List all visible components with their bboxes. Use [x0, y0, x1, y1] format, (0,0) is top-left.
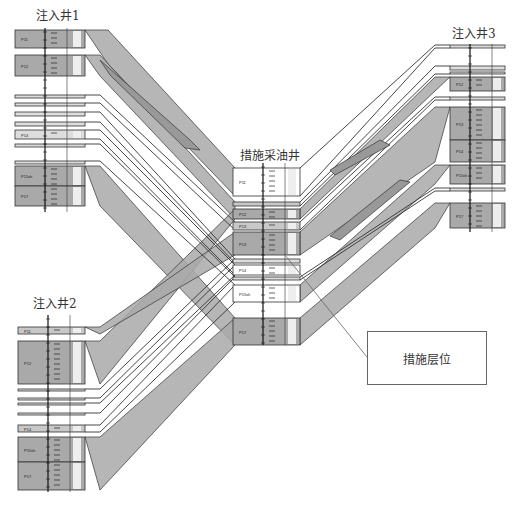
layer-label: P11 [24, 329, 32, 334]
layer-P13 [18, 389, 85, 391]
interpretation-box [493, 78, 501, 90]
interpretation-box [493, 108, 501, 139]
layer-P13 [15, 112, 85, 116]
well-column-prod: P11P12P13P13P14P15shP17 [233, 163, 300, 345]
sand-lens [100, 60, 200, 150]
layer-P12 [450, 72, 505, 74]
layer-label: P12 [21, 64, 29, 69]
layer-P14 [18, 413, 85, 415]
layer-P13 [18, 398, 85, 400]
interpretation-box [493, 204, 501, 227]
well-title-producer: 措施采油井 [240, 146, 300, 163]
interpretation-box [288, 286, 296, 301]
interpretation-box [73, 167, 81, 185]
interpretation-box [288, 223, 296, 229]
layer-P14 [18, 403, 85, 405]
layer-label: P17 [456, 214, 464, 219]
layer-label: P14 [24, 427, 32, 432]
layer-P11 [450, 45, 505, 48]
well-correlation-diagram: P11P12P14P15shP17P11P12P13P13P14P15shP17… [0, 0, 528, 506]
layer-label: P14 [456, 149, 464, 154]
well-title-injector-1: 注入井1 [36, 6, 80, 23]
callout-measure-layer: 措施层位 [367, 331, 487, 385]
layer-label: P14 [239, 268, 247, 273]
layer-label: P15sh [21, 174, 32, 179]
interpretation-box [288, 210, 296, 218]
interpretation-box [288, 169, 296, 195]
layer-label: P15sh [24, 448, 35, 453]
layer-P14 [15, 122, 85, 126]
layer-label: P17 [239, 330, 247, 335]
interpretation-box [73, 328, 81, 333]
well-column-inj3: P12P13P14P15shP17 [450, 44, 505, 232]
well-column-inj1: P11P12P14P15shP17 [15, 28, 85, 212]
well-column-inj2: P11P12P14P15shP17 [18, 315, 85, 492]
layer-label: P12 [456, 82, 464, 87]
layer-label: P13 [456, 122, 464, 127]
well-title-injector-3: 注入井3 [452, 24, 496, 41]
interpretation-box [73, 438, 81, 461]
layer-P15 [233, 277, 300, 280]
well-title-injector-2: 注入井2 [33, 294, 77, 311]
layer-label: P12 [239, 212, 247, 217]
interpretation-box [73, 426, 81, 431]
layer-P15 [15, 144, 85, 147]
layer-P12 [233, 202, 300, 206]
interpretation-box [73, 131, 81, 138]
layer-label: P12 [24, 361, 32, 366]
layer-P13 [15, 103, 85, 106]
interpretation-box [73, 56, 81, 75]
layer-label: P15sh [239, 292, 250, 297]
layer-label: P17 [21, 194, 29, 199]
layer-P13 [15, 95, 85, 98]
well-columns: P11P12P14P15shP17P11P12P13P13P14P15shP17… [15, 28, 505, 492]
layer-label: P14 [21, 133, 29, 138]
layer-P12 [450, 66, 505, 70]
interpretation-box [288, 233, 296, 254]
layer-label: P11 [21, 37, 29, 42]
layer-label: P15sh [456, 173, 467, 178]
layer-P15sh [15, 161, 85, 164]
interpretation-box [73, 463, 81, 489]
layer-label: P13 [239, 224, 247, 229]
interpretation-box [73, 342, 81, 383]
interpretation-box [493, 141, 501, 161]
layer-label: P17 [24, 474, 32, 479]
layer-P13 [450, 97, 505, 100]
layer-P15sh [450, 188, 505, 191]
callout-label: 措施层位 [403, 350, 451, 367]
interpretation-box [73, 187, 81, 205]
interpretation-box [288, 319, 296, 344]
interpretation-box [73, 31, 81, 47]
layer-label: P11 [239, 180, 247, 185]
layer-label: P13 [239, 242, 247, 247]
interpretation-box [493, 166, 501, 183]
